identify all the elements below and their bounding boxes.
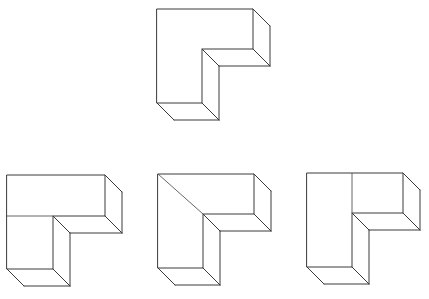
depth-edge	[53, 216, 70, 233]
option-l-shape-1[interactable]	[7, 175, 122, 286]
depth-edge	[307, 267, 324, 284]
depth-edge	[157, 103, 174, 120]
option-l-shape-2[interactable]	[158, 174, 271, 285]
front-face	[7, 175, 105, 269]
depth-edge	[253, 49, 270, 66]
depth-edge	[254, 214, 271, 231]
depth-edge	[403, 173, 420, 190]
depth-edge	[203, 214, 220, 231]
depth-edge	[403, 213, 420, 230]
depth-edge	[158, 268, 175, 285]
depth-edge	[352, 213, 369, 230]
depth-edge	[203, 268, 220, 285]
front-face	[307, 173, 403, 267]
reference-l-shape	[157, 9, 270, 120]
internal-line	[158, 174, 203, 214]
option-l-shape-3[interactable]	[307, 173, 420, 284]
depth-edge	[53, 269, 70, 286]
depth-edge	[254, 174, 271, 191]
depth-edge	[202, 103, 219, 120]
depth-edge	[253, 9, 270, 26]
depth-edge	[7, 269, 24, 286]
depth-edge	[202, 49, 219, 66]
front-face	[157, 9, 253, 103]
front-face	[158, 174, 254, 268]
depth-edge	[105, 175, 122, 192]
depth-edge	[352, 267, 369, 284]
l-shape-figures	[0, 0, 429, 299]
depth-edge	[105, 216, 122, 233]
diagram-canvas	[0, 0, 429, 299]
